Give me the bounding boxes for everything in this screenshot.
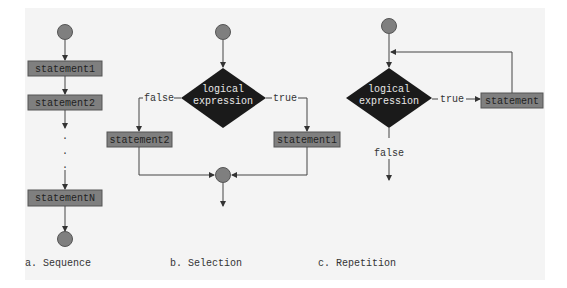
- repetition-statement: statement: [481, 93, 543, 108]
- repetition-condition-diamond: logical expression: [346, 68, 432, 128]
- statement-label: statement2: [109, 135, 169, 146]
- selection-flowchart: logical expression false statement2 true…: [107, 25, 340, 270]
- statement-label: statement1: [277, 135, 337, 146]
- statement-label: statement: [485, 96, 539, 107]
- sequence-caption: a. Sequence: [25, 258, 91, 269]
- condition-text: logical: [202, 84, 244, 95]
- condition-text: expression: [193, 96, 253, 107]
- sequence-flowchart: statement1 statement2 . . . statementN a…: [25, 25, 102, 270]
- condition-text: logical: [368, 84, 410, 95]
- statement-label: statementN: [35, 193, 95, 204]
- repetition-start-node: [382, 19, 397, 34]
- true-branch-label: true: [273, 93, 297, 104]
- repetition-caption: c. Repetition: [318, 258, 396, 269]
- false-branch-label: false: [144, 93, 174, 104]
- sequence-statement-1: statement1: [28, 61, 102, 76]
- selection-true-statement: statement1: [274, 132, 340, 147]
- sequence-statement-2: statement2: [28, 95, 102, 110]
- statement-label: statement1: [35, 64, 95, 75]
- selection-false-statement: statement2: [107, 132, 172, 147]
- true-branch-label: true: [440, 94, 464, 105]
- ellipsis-dot: .: [62, 131, 68, 142]
- selection-caption: b. Selection: [170, 258, 242, 269]
- condition-text: expression: [359, 96, 419, 107]
- ellipsis-dot: .: [62, 160, 68, 171]
- ellipsis-dot: .: [62, 146, 68, 157]
- selection-start-node: [216, 25, 231, 40]
- control-structures-diagram: statement1 statement2 . . . statementN a…: [0, 0, 567, 288]
- statement-label: statement2: [35, 98, 95, 109]
- selection-merge-node: [216, 168, 231, 183]
- sequence-end-node: [58, 232, 73, 247]
- false-branch-label: false: [374, 148, 404, 159]
- sequence-start-node: [58, 25, 73, 40]
- repetition-flowchart: logical expression true statement false …: [318, 19, 543, 270]
- sequence-statement-n: statementN: [28, 190, 102, 206]
- selection-condition-diamond: logical expression: [181, 68, 266, 128]
